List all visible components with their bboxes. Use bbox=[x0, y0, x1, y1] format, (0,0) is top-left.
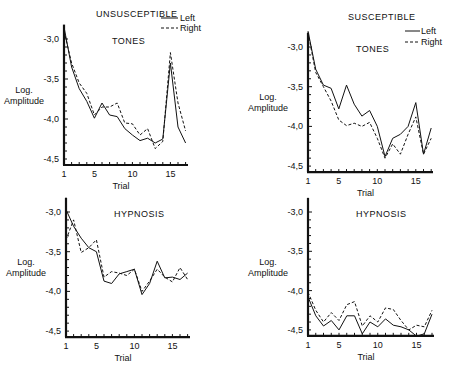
panel-title: TONES bbox=[356, 44, 389, 54]
x-axis-label: Trial bbox=[357, 188, 374, 198]
x-tick-label: 1 bbox=[63, 341, 68, 351]
y-tick-label: -4,0 bbox=[45, 286, 61, 296]
y-tick-label: -3,0 bbox=[287, 207, 303, 217]
x-tick-label: 15 bbox=[411, 340, 421, 350]
y-axis-label: Amplitude bbox=[4, 96, 44, 106]
legend-right-label: Right bbox=[180, 23, 202, 33]
x-tick-label: 5 bbox=[92, 169, 97, 179]
y-tick-label: -4,0 bbox=[287, 286, 303, 296]
x-tick-label: 10 bbox=[127, 169, 137, 179]
y-axis-label: Amplitude bbox=[248, 103, 288, 113]
x-axis-label: Trial bbox=[357, 352, 374, 362]
x-tick-label: 10 bbox=[372, 176, 382, 186]
y-tick-label: -3,0 bbox=[45, 207, 61, 217]
x-tick-label: 15 bbox=[411, 176, 421, 186]
y-tick-label: -4,0 bbox=[43, 114, 59, 124]
figure-canvas: UNSUSCEPTIBLE SUSCEPTIBLE Left Right Lef… bbox=[0, 0, 449, 370]
y-tick-label: -4,5 bbox=[287, 325, 303, 335]
chart-susceptible-tones: -3,0-3,5-4,0-4,5151015TrialLog.Amplitude… bbox=[248, 31, 433, 198]
series-right bbox=[66, 220, 188, 292]
y-tick-label: -4,5 bbox=[45, 326, 61, 336]
group-title-susceptible: SUSCEPTIBLE bbox=[348, 12, 416, 22]
x-tick-label: 1 bbox=[305, 176, 310, 186]
x-tick-label: 15 bbox=[167, 341, 177, 351]
x-tick-label: 10 bbox=[373, 340, 383, 350]
chart-susceptible-hypnosis: -3,0-3,5-4,0-4,5151015TrialLog.Amplitude… bbox=[248, 198, 434, 362]
series-left bbox=[66, 210, 188, 295]
y-axis-label: Log. bbox=[15, 85, 33, 95]
x-tick-label: 5 bbox=[94, 341, 99, 351]
y-tick-label: -3,0 bbox=[287, 42, 303, 52]
y-tick-label: -3,5 bbox=[43, 74, 59, 84]
panel-title: HYPNOSIS bbox=[356, 209, 407, 219]
panel-title: TONES bbox=[112, 36, 145, 46]
x-tick-label: 10 bbox=[129, 341, 139, 351]
y-tick-label: -3,5 bbox=[45, 247, 61, 257]
y-axis-label: Log. bbox=[259, 257, 277, 267]
legend-left-label: Left bbox=[180, 13, 196, 23]
y-axis-label: Amplitude bbox=[248, 268, 288, 278]
y-tick-label: -4,0 bbox=[287, 121, 303, 131]
chart-unsusceptible-hypnosis: -3,0-3,5-4,0-4,5151015TrialLog.Amplitude… bbox=[6, 198, 190, 363]
y-tick-label: -3,5 bbox=[287, 246, 303, 256]
y-axis-label: Log. bbox=[17, 257, 35, 267]
y-tick-label: -4,5 bbox=[43, 154, 59, 164]
x-axis-label: Trial bbox=[112, 181, 129, 191]
x-axis-label: Trial bbox=[114, 353, 131, 363]
legend-susceptible: Left Right bbox=[405, 26, 443, 47]
y-axis-label: Amplitude bbox=[6, 268, 46, 278]
y-tick-label: -4,5 bbox=[287, 161, 303, 171]
x-tick-label: 15 bbox=[165, 169, 175, 179]
x-tick-label: 5 bbox=[336, 340, 341, 350]
legend-left-label: Left bbox=[421, 26, 437, 36]
y-tick-label: -3,0 bbox=[43, 34, 59, 44]
x-tick-label: 5 bbox=[336, 176, 341, 186]
legend-right-label: Right bbox=[421, 37, 443, 47]
y-tick-label: -3,5 bbox=[287, 82, 303, 92]
panel-title: HYPNOSIS bbox=[114, 209, 165, 219]
chart-unsusceptible-tones: -3,0-3,5-4,0-4,5151015TrialLog.Amplitude… bbox=[4, 25, 188, 191]
x-tick-label: 1 bbox=[305, 340, 310, 350]
y-axis-label: Log. bbox=[259, 92, 277, 102]
x-tick-label: 1 bbox=[61, 169, 66, 179]
